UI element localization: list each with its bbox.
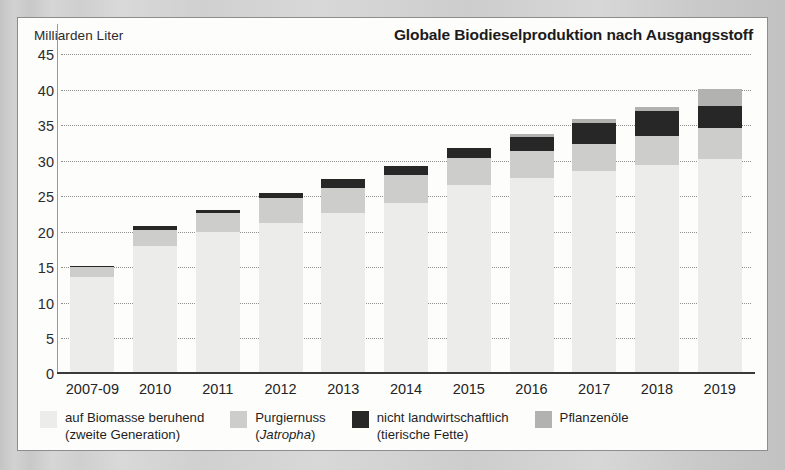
bar-segment-jatropha[interactable] — [133, 230, 177, 246]
x-axis-tick-2014: 2014 — [390, 381, 422, 397]
bar-segment-animal-fats[interactable] — [510, 137, 554, 151]
y-axis-tick-35: 35 — [38, 118, 54, 134]
x-axis-tick-2012: 2012 — [264, 381, 296, 397]
bar-column[interactable]: 2018 — [626, 54, 689, 374]
legend-swatch-jatropha — [230, 411, 247, 428]
bar-segment-vegetable-oils[interactable] — [698, 89, 742, 106]
bar-stack[interactable] — [70, 266, 114, 374]
legend-label: Purgiernuss(Jatropha) — [255, 410, 325, 443]
bar-segment-biomass[interactable] — [196, 232, 240, 374]
plot-area: 051015202530354045 2007-0920102011201220… — [61, 54, 751, 374]
chart-card: Milliarden Liter Globale Biodieselproduk… — [17, 17, 768, 451]
bar-stack[interactable] — [447, 148, 491, 374]
bar-column[interactable]: 2012 — [249, 54, 312, 374]
bar-column[interactable]: 2019 — [688, 54, 751, 374]
y-axis-tick-10: 10 — [38, 296, 54, 312]
bar-column[interactable]: 2014 — [375, 54, 438, 374]
bar-stack[interactable] — [384, 166, 428, 374]
bar-column[interactable]: 2017 — [563, 54, 626, 374]
bar-segment-jatropha[interactable] — [70, 267, 114, 276]
bar-segment-jatropha[interactable] — [259, 198, 303, 224]
bar-stack[interactable] — [133, 226, 177, 374]
legend-label: Pflanzenöle — [560, 410, 629, 427]
bar-segment-biomass[interactable] — [384, 203, 428, 374]
bar-segment-jatropha[interactable] — [510, 151, 554, 179]
bar-column[interactable]: 2013 — [312, 54, 375, 374]
x-axis-tick-2016: 2016 — [515, 381, 547, 397]
bar-segment-biomass[interactable] — [510, 178, 554, 374]
bar-stack[interactable] — [635, 107, 679, 374]
y-axis-tick-25: 25 — [38, 189, 54, 205]
bar-segment-animal-fats[interactable] — [447, 148, 491, 158]
bar-series-container: 2007-09201020112012201320142015201620172… — [61, 54, 751, 374]
bar-stack[interactable] — [196, 210, 240, 374]
bar-segment-biomass[interactable] — [698, 159, 742, 374]
bar-segment-jatropha[interactable] — [572, 144, 616, 170]
bar-stack[interactable] — [572, 119, 616, 374]
scanned-page-background: Milliarden Liter Globale Biodieselproduk… — [0, 0, 785, 470]
x-axis-line — [57, 372, 755, 374]
bar-column[interactable]: 2007-09 — [61, 54, 124, 374]
bar-stack[interactable] — [698, 89, 742, 374]
y-axis-tick-0: 0 — [46, 366, 54, 382]
y-axis-unit-label: Milliarden Liter — [34, 28, 123, 43]
legend-swatch-biomass — [40, 411, 57, 428]
legend-label: nicht landwirtschaftlich(tierische Fette… — [377, 410, 509, 443]
x-axis-tick-2015: 2015 — [453, 381, 485, 397]
legend-swatch-animal-fats — [352, 411, 369, 428]
y-axis-tick-40: 40 — [38, 83, 54, 99]
x-axis-tick-2018: 2018 — [641, 381, 673, 397]
y-axis-tick-30: 30 — [38, 154, 54, 170]
bar-stack[interactable] — [510, 134, 554, 374]
x-axis-tick-2011: 2011 — [202, 381, 233, 397]
y-axis-tick-45: 45 — [38, 47, 54, 63]
chart-legend: auf Biomasse beruhend(zweite Generation)… — [40, 410, 755, 443]
bar-segment-animal-fats[interactable] — [321, 179, 365, 188]
x-axis-tick-2007-09: 2007-09 — [66, 381, 119, 397]
legend-item[interactable]: Purgiernuss(Jatropha) — [230, 410, 325, 443]
bar-column[interactable]: 2010 — [124, 54, 187, 374]
x-axis-tick-2013: 2013 — [327, 381, 359, 397]
legend-swatch-vegetable-oils — [535, 411, 552, 428]
y-axis-tick-5: 5 — [46, 331, 54, 347]
bar-segment-animal-fats[interactable] — [635, 111, 679, 136]
legend-item[interactable]: auf Biomasse beruhend(zweite Generation) — [40, 410, 204, 443]
bar-stack[interactable] — [321, 179, 365, 374]
chart-inner: Milliarden Liter Globale Biodieselproduk… — [18, 18, 767, 450]
legend-label: auf Biomasse beruhend(zweite Generation) — [65, 410, 204, 443]
bar-segment-animal-fats[interactable] — [698, 106, 742, 128]
legend-item[interactable]: nicht landwirtschaftlich(tierische Fette… — [352, 410, 509, 443]
bar-segment-jatropha[interactable] — [635, 136, 679, 165]
bar-column[interactable]: 2016 — [500, 54, 563, 374]
bar-segment-biomass[interactable] — [133, 246, 177, 374]
bar-stack[interactable] — [259, 193, 303, 374]
chart-title: Globale Biodieselproduktion nach Ausgang… — [394, 26, 753, 44]
y-axis-tick-15: 15 — [38, 260, 54, 276]
bar-segment-biomass[interactable] — [70, 277, 114, 374]
bar-segment-biomass[interactable] — [447, 185, 491, 374]
bar-segment-animal-fats[interactable] — [384, 166, 428, 175]
bar-segment-jatropha[interactable] — [321, 188, 365, 214]
bar-segment-biomass[interactable] — [572, 171, 616, 374]
bar-column[interactable]: 2015 — [437, 54, 500, 374]
x-axis-tick-2017: 2017 — [578, 381, 610, 397]
bar-segment-biomass[interactable] — [259, 223, 303, 374]
x-axis-tick-2010: 2010 — [139, 381, 171, 397]
y-axis-line — [57, 24, 58, 374]
legend-item[interactable]: Pflanzenöle — [535, 410, 629, 428]
bar-segment-jatropha[interactable] — [447, 158, 491, 185]
bar-column[interactable]: 2011 — [186, 54, 249, 374]
bar-segment-jatropha[interactable] — [196, 213, 240, 231]
bar-segment-animal-fats[interactable] — [572, 123, 616, 144]
bar-segment-biomass[interactable] — [635, 165, 679, 374]
bar-segment-biomass[interactable] — [321, 213, 365, 374]
bar-segment-jatropha[interactable] — [698, 128, 742, 159]
x-axis-tick-2019: 2019 — [704, 381, 736, 397]
bar-segment-jatropha[interactable] — [384, 175, 428, 203]
y-axis-tick-20: 20 — [38, 225, 54, 241]
